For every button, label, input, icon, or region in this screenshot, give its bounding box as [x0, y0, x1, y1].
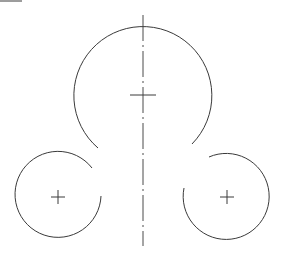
drawing-canvas	[0, 0, 286, 264]
right-circle-arc	[183, 153, 269, 239]
technical-drawing	[0, 0, 286, 264]
